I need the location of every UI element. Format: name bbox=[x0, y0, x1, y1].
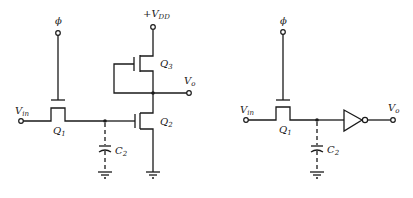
q1-channel bbox=[248, 107, 317, 120]
vo-label: Vo bbox=[388, 102, 399, 115]
q3-source bbox=[140, 71, 153, 93]
c2-capacitor: C2 bbox=[310, 122, 340, 178]
vo-terminal bbox=[391, 118, 396, 123]
inverter-icon bbox=[344, 110, 391, 131]
vo-output: Vo bbox=[388, 102, 399, 122]
vin-label: Vin bbox=[15, 105, 29, 118]
phi-terminal bbox=[281, 30, 286, 35]
left-circuit: ϕ Q1 Vin C2 bbox=[15, 8, 195, 178]
circuit-diagram: ϕ Q1 Vin C2 bbox=[0, 0, 413, 198]
storage-node bbox=[103, 119, 107, 123]
vo-output: Vo bbox=[151, 75, 195, 95]
c2-label: C2 bbox=[327, 144, 340, 157]
vin-terminal bbox=[19, 119, 24, 124]
phi-label: ϕ bbox=[55, 15, 62, 26]
vo-terminal bbox=[187, 91, 192, 96]
q2-label: Q2 bbox=[160, 116, 173, 129]
vdd-supply: +VDD bbox=[143, 8, 170, 29]
ground-icon bbox=[310, 172, 324, 178]
c2-label: C2 bbox=[115, 145, 128, 158]
storage-node bbox=[315, 118, 319, 122]
vo-label: Vo bbox=[184, 75, 195, 88]
q3-load-transistor: Q3 bbox=[114, 30, 173, 93]
phi-clock-input: ϕ bbox=[280, 15, 287, 100]
q2-source bbox=[140, 129, 153, 172]
vdd-label: +VDD bbox=[143, 8, 170, 21]
right-circuit: ϕ Q1 Vin C2 bbox=[240, 15, 399, 178]
q2-drain bbox=[140, 93, 153, 113]
inverter-bubble bbox=[362, 117, 367, 122]
ground-icon bbox=[98, 172, 112, 178]
q3-drain bbox=[140, 30, 153, 56]
q1-channel bbox=[23, 108, 105, 121]
ground-icon bbox=[146, 172, 160, 178]
q1-pass-transistor: Q1 bbox=[248, 100, 317, 137]
q3-label: Q3 bbox=[160, 58, 173, 71]
vin-terminal bbox=[244, 118, 249, 123]
q2-driver-transistor: Q2 bbox=[135, 93, 173, 178]
inverter-triangle bbox=[344, 110, 362, 131]
q1-label: Q1 bbox=[53, 125, 66, 138]
c2-capacitor: C2 bbox=[98, 123, 128, 178]
vdd-terminal bbox=[151, 25, 156, 30]
phi-label: ϕ bbox=[280, 15, 287, 26]
q1-label: Q1 bbox=[279, 124, 292, 137]
q1-pass-transistor: Q1 bbox=[23, 100, 105, 138]
vin-label: Vin bbox=[240, 104, 254, 117]
phi-terminal bbox=[56, 31, 61, 36]
phi-clock-input: ϕ bbox=[55, 15, 62, 100]
